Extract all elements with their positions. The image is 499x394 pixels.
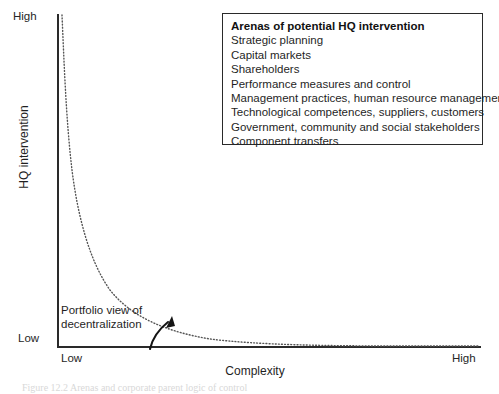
portfolio-annotation-line-2: decentralization: [61, 318, 142, 332]
annotation-arrow: [150, 316, 175, 349]
legend-title: Arenas of potential HQ intervention: [231, 19, 482, 33]
legend-item-government-community: Government, community and social stakeho…: [231, 120, 482, 134]
portfolio-annotation: Portfolio view of decentralization: [61, 304, 142, 331]
figure-caption: Figure 12.2 Arenas and corporate parent …: [22, 382, 247, 393]
legend-item-management-practices: Management practices, human resource man…: [231, 91, 482, 105]
portfolio-annotation-line-1: Portfolio view of: [61, 304, 142, 318]
arenas-legend-box: Arenas of potential HQ intervention Stra…: [222, 13, 483, 145]
y-axis-line: [57, 14, 59, 348]
legend-item-technological-competences: Technological competences, suppliers, cu…: [231, 105, 482, 119]
y-axis-title: HQ intervention: [17, 87, 31, 207]
legend-item-strategic-planning: Strategic planning: [231, 33, 482, 47]
y-axis-high-tick-label: High: [13, 10, 37, 23]
legend-item-component-transfers: Component transfers: [231, 134, 482, 148]
legend-item-performance-measures: Performance measures and control: [231, 77, 482, 91]
legend-item-shareholders: Shareholders: [231, 62, 482, 76]
x-axis-low-tick-label: Low: [61, 352, 82, 365]
legend-item-capital-markets: Capital markets: [231, 48, 482, 62]
x-axis-title: Complexity: [180, 364, 330, 378]
figure-container: High Low Low High HQ intervention Comple…: [0, 0, 499, 394]
x-axis-line: [57, 346, 481, 348]
x-axis-high-tick-label: High: [452, 352, 476, 365]
y-axis-low-tick-label: Low: [18, 332, 39, 345]
